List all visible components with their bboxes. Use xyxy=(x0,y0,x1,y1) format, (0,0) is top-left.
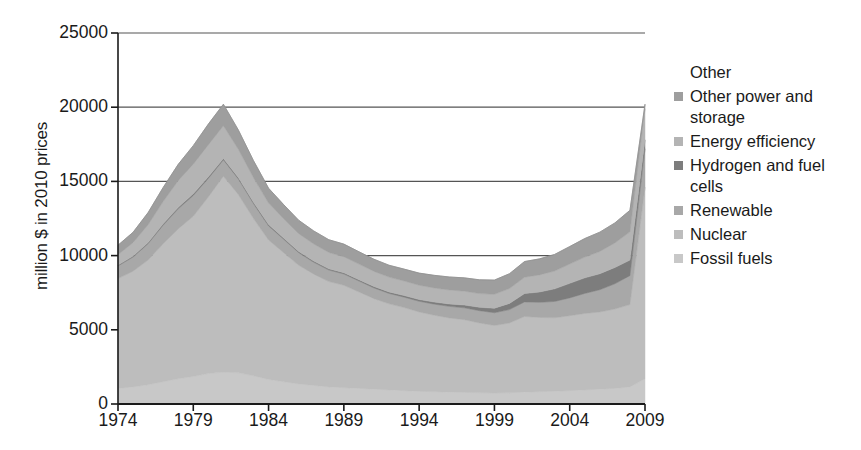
legend-item-label: Energy efficiency xyxy=(690,131,860,152)
legend-item-label: Nuclear xyxy=(690,224,860,245)
legend-item[interactable]: Nuclear xyxy=(672,224,860,245)
legend-item[interactable]: Other power and storage xyxy=(672,86,860,128)
area-series-group xyxy=(118,104,645,404)
legend-header-label: Other xyxy=(690,62,860,83)
chart-legend: Other Other power and storageEnergy effi… xyxy=(672,62,860,272)
legend-swatch-icon xyxy=(674,92,683,101)
legend-header: Other xyxy=(672,62,860,83)
legend-item[interactable]: Renewable xyxy=(672,200,860,221)
legend-item-label: Renewable xyxy=(690,200,860,221)
chart-figure: million $ in 2010 prices 050001000015000… xyxy=(0,0,861,450)
legend-item-list: Other power and storageEnergy efficiency… xyxy=(672,86,860,269)
legend-item[interactable]: Energy efficiency xyxy=(672,131,860,152)
legend-item-label: Fossil fuels xyxy=(690,248,860,269)
legend-swatch-icon xyxy=(674,254,683,263)
legend-item-label: Hydrogen and fuel cells xyxy=(690,155,860,197)
legend-item[interactable]: Hydrogen and fuel cells xyxy=(672,155,860,197)
legend-item-label: Other power and storage xyxy=(690,86,860,128)
legend-swatch-icon xyxy=(674,161,683,170)
legend-swatch-icon xyxy=(674,137,683,146)
legend-item[interactable]: Fossil fuels xyxy=(672,248,860,269)
legend-swatch-icon xyxy=(674,230,683,239)
legend-swatch-icon xyxy=(674,206,683,215)
